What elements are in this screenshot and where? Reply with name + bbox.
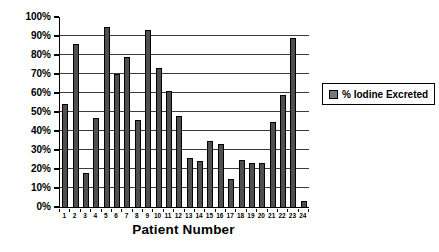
- bar-patient-2: [73, 44, 79, 207]
- bar-patient-23: [290, 38, 296, 207]
- x-axis-label: 22: [277, 212, 287, 219]
- bar-slot: [216, 17, 226, 207]
- x-axis-label: 6: [111, 212, 121, 219]
- x-axis-label: 20: [256, 212, 266, 219]
- bar-slot: [102, 17, 112, 207]
- x-axis-label: 23: [287, 212, 297, 219]
- x-axis-label: 18: [235, 212, 245, 219]
- legend-label: % Iodine Excreted: [342, 89, 428, 100]
- bar-patient-19: [249, 163, 255, 207]
- legend-marker-icon: [329, 90, 338, 99]
- bar-slot: [288, 17, 298, 207]
- x-axis-label: 2: [69, 212, 79, 219]
- bar-slot: [112, 17, 122, 207]
- bar-patient-1: [62, 104, 68, 207]
- bar-patient-17: [228, 179, 234, 208]
- bar-patient-21: [270, 122, 276, 208]
- x-axis-label: 8: [132, 212, 142, 219]
- bar-slot: [226, 17, 236, 207]
- bar-patient-8: [135, 120, 141, 207]
- bar-patient-11: [166, 91, 172, 207]
- iodine-excreted-bar-chart: 0%10%20%30%40%50%60%70%80%90%100% 123456…: [0, 0, 439, 252]
- bar-patient-3: [83, 173, 89, 207]
- bar-patient-18: [239, 160, 245, 208]
- x-axis-label: 5: [101, 212, 111, 219]
- x-axis-label: 13: [184, 212, 194, 219]
- bar-patient-7: [124, 57, 130, 207]
- x-axis-label: 7: [121, 212, 131, 219]
- x-axis-label: 16: [215, 212, 225, 219]
- x-axis-label: 21: [267, 212, 277, 219]
- bar-slot: [257, 17, 267, 207]
- x-axis-label: 11: [163, 212, 173, 219]
- bar-patient-5: [104, 27, 110, 208]
- bar-slot: [133, 17, 143, 207]
- bar-patient-15: [207, 141, 213, 208]
- bars: [60, 17, 309, 207]
- x-axis-label: 24: [298, 212, 308, 219]
- bar-patient-13: [187, 158, 193, 207]
- x-axis-label: 9: [142, 212, 152, 219]
- x-axis-label: 12: [173, 212, 183, 219]
- bar-slot: [143, 17, 153, 207]
- bar-patient-24: [301, 201, 307, 207]
- plot-area: [59, 17, 309, 208]
- bar-slot: [299, 17, 309, 207]
- x-axis-label: 17: [225, 212, 235, 219]
- x-axis-label: 14: [194, 212, 204, 219]
- bar-patient-6: [114, 74, 120, 207]
- legend: % Iodine Excreted: [322, 83, 435, 105]
- bar-slot: [185, 17, 195, 207]
- x-axis-title: Patient Number: [59, 222, 308, 237]
- bar-patient-14: [197, 161, 203, 207]
- y-axis-ticks: [0, 0, 60, 252]
- x-axis-label: 10: [152, 212, 162, 219]
- bar-slot: [81, 17, 91, 207]
- bar-slot: [268, 17, 278, 207]
- x-axis-labels: 123456789101112131415161718192021222324: [59, 212, 308, 219]
- bar-patient-4: [93, 118, 99, 207]
- x-axis-label: 1: [59, 212, 69, 219]
- x-axis-label: 3: [80, 212, 90, 219]
- bar-slot: [60, 17, 70, 207]
- bar-slot: [236, 17, 246, 207]
- bar-patient-20: [259, 163, 265, 207]
- bar-slot: [195, 17, 205, 207]
- x-axis-label: 4: [90, 212, 100, 219]
- bar-patient-16: [218, 144, 224, 207]
- bar-slot: [247, 17, 257, 207]
- bar-slot: [70, 17, 80, 207]
- bar-patient-9: [145, 30, 151, 207]
- bar-slot: [153, 17, 163, 207]
- x-axis-label: 19: [246, 212, 256, 219]
- bar-patient-10: [156, 68, 162, 207]
- bar-patient-12: [176, 116, 182, 207]
- bar-slot: [278, 17, 288, 207]
- x-axis-label: 15: [204, 212, 214, 219]
- bar-slot: [164, 17, 174, 207]
- bar-slot: [205, 17, 215, 207]
- bar-slot: [91, 17, 101, 207]
- bar-slot: [174, 17, 184, 207]
- bar-slot: [122, 17, 132, 207]
- bar-patient-22: [280, 95, 286, 207]
